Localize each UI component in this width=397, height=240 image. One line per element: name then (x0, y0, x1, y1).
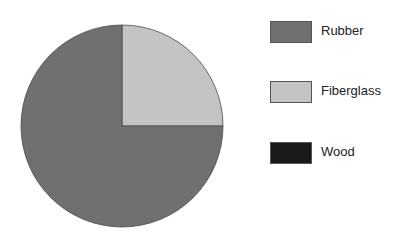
legend-swatch-wood (270, 142, 312, 164)
pie-chart (0, 0, 260, 240)
pie-slice-fiberglass (122, 25, 223, 126)
pie-slices (21, 25, 223, 227)
legend-swatch-rubber (270, 21, 312, 43)
legend-item-rubber: Rubber (270, 21, 397, 45)
legend-swatch-fiberglass (270, 81, 312, 103)
legend-label-wood: Wood (321, 144, 355, 159)
legend-item-fiberglass: Fiberglass (270, 81, 397, 105)
legend-label-fiberglass: Fiberglass (321, 83, 381, 98)
legend-item-wood: Wood (270, 142, 397, 166)
legend-label-rubber: Rubber (321, 23, 364, 38)
